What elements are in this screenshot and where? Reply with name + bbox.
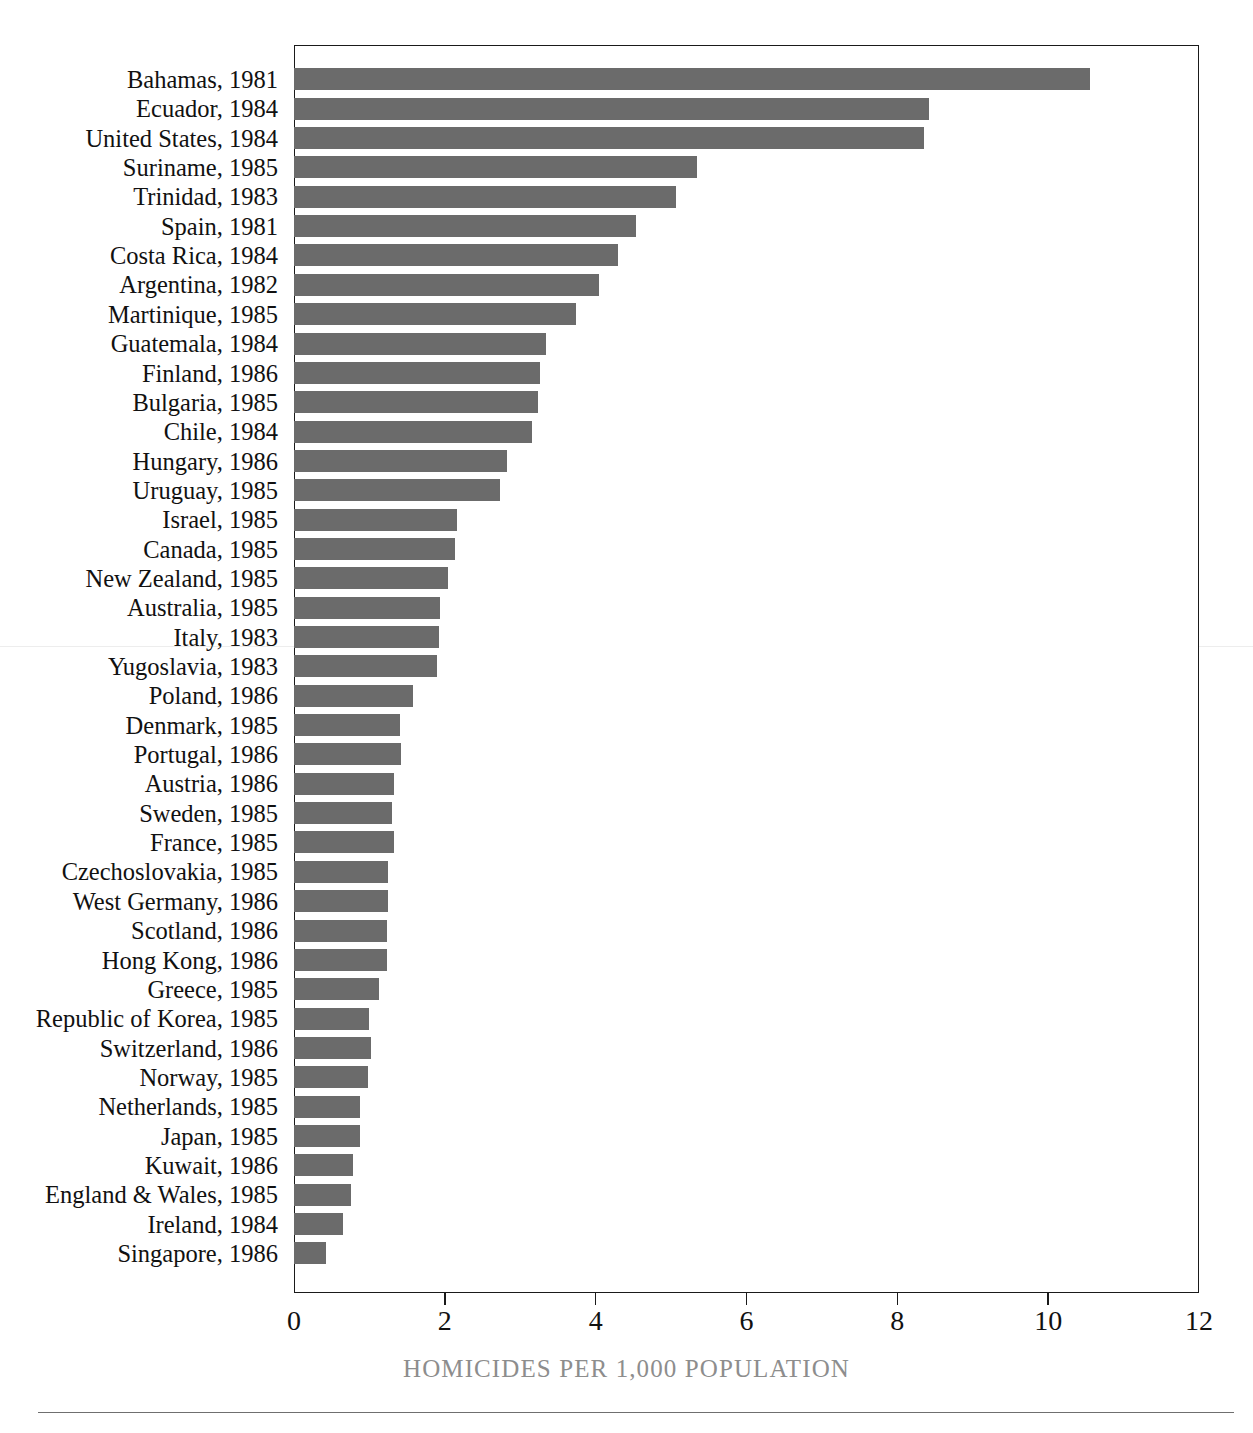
y-axis-label: Greece, 1985 xyxy=(0,975,286,1004)
bar xyxy=(294,303,576,325)
x-axis-tick-label: 8 xyxy=(890,1305,904,1337)
bar xyxy=(294,597,440,619)
y-axis-label: Spain, 1981 xyxy=(0,212,286,241)
bar xyxy=(294,1242,326,1264)
bar-row xyxy=(294,1122,1199,1151)
bar-row xyxy=(294,887,1199,916)
y-axis-label: Chile, 1984 xyxy=(0,417,286,446)
bar xyxy=(294,802,392,824)
bar xyxy=(294,626,439,648)
bar xyxy=(294,1184,351,1206)
bar-row xyxy=(294,359,1199,388)
bar xyxy=(294,743,401,765)
bar-row xyxy=(294,711,1199,740)
y-axis-label: Costa Rica, 1984 xyxy=(0,241,286,270)
y-axis-label: West Germany, 1986 xyxy=(0,887,286,916)
y-axis-label: Japan, 1985 xyxy=(0,1122,286,1151)
bar xyxy=(294,186,676,208)
bar-row xyxy=(294,857,1199,886)
x-axis-tick-label: 4 xyxy=(589,1305,603,1337)
bar-row xyxy=(294,946,1199,975)
y-axis-label: Argentina, 1982 xyxy=(0,270,286,299)
bar xyxy=(294,421,532,443)
bar xyxy=(294,890,388,912)
bar-row xyxy=(294,153,1199,182)
page-bottom-rule xyxy=(38,1412,1234,1413)
y-axis-label: Netherlands, 1985 xyxy=(0,1092,286,1121)
bar-row xyxy=(294,124,1199,153)
y-axis-label: Ireland, 1984 xyxy=(0,1210,286,1239)
bar-row xyxy=(294,975,1199,1004)
bar-row xyxy=(294,799,1199,828)
bar-row xyxy=(294,623,1199,652)
bar-row xyxy=(294,769,1199,798)
bar xyxy=(294,567,448,589)
y-axis-label: United States, 1984 xyxy=(0,124,286,153)
bar-row xyxy=(294,388,1199,417)
bar-row xyxy=(294,241,1199,270)
bar-row xyxy=(294,270,1199,299)
x-axis-tick-label: 6 xyxy=(740,1305,754,1337)
bar-row xyxy=(294,916,1199,945)
bar-row xyxy=(294,593,1199,622)
x-axis-tick xyxy=(897,1293,899,1305)
y-axis-label: Suriname, 1985 xyxy=(0,153,286,182)
bar-row xyxy=(294,652,1199,681)
y-axis-label: Hungary, 1986 xyxy=(0,447,286,476)
bar-row xyxy=(294,476,1199,505)
y-axis-label: Yugoslavia, 1983 xyxy=(0,652,286,681)
bar xyxy=(294,861,388,883)
bar xyxy=(294,1037,371,1059)
bar xyxy=(294,1096,360,1118)
bar xyxy=(294,274,599,296)
bar-row xyxy=(294,1210,1199,1239)
y-axis-label: France, 1985 xyxy=(0,828,286,857)
bar xyxy=(294,538,455,560)
x-axis-tick-label: 0 xyxy=(287,1305,301,1337)
bar-row xyxy=(294,329,1199,358)
bar-chart-figure: Bahamas, 1981Ecuador, 1984United States,… xyxy=(0,0,1253,1433)
bar xyxy=(294,68,1090,90)
bar xyxy=(294,479,500,501)
bar-row xyxy=(294,828,1199,857)
y-axis-label: Canada, 1985 xyxy=(0,535,286,564)
bar xyxy=(294,244,618,266)
bar xyxy=(294,391,538,413)
y-axis-label: Norway, 1985 xyxy=(0,1063,286,1092)
bar-row xyxy=(294,1004,1199,1033)
y-axis-label: Ecuador, 1984 xyxy=(0,94,286,123)
bar xyxy=(294,773,394,795)
y-axis-label: Bulgaria, 1985 xyxy=(0,388,286,417)
bar-row xyxy=(294,417,1199,446)
y-axis-label: Bahamas, 1981 xyxy=(0,65,286,94)
bar xyxy=(294,1125,360,1147)
bar-row xyxy=(294,94,1199,123)
bar-row xyxy=(294,1180,1199,1209)
y-axis-label: New Zealand, 1985 xyxy=(0,564,286,593)
bar-row xyxy=(294,535,1199,564)
y-axis-label: Finland, 1986 xyxy=(0,359,286,388)
y-axis-label: Poland, 1986 xyxy=(0,681,286,710)
x-axis-tick-label: 12 xyxy=(1185,1305,1213,1337)
y-axis-label: Republic of Korea, 1985 xyxy=(0,1004,286,1033)
bar-row xyxy=(294,65,1199,94)
bar xyxy=(294,127,924,149)
bar xyxy=(294,831,394,853)
bar-row xyxy=(294,681,1199,710)
bar xyxy=(294,714,400,736)
bar xyxy=(294,978,379,1000)
bar-row xyxy=(294,1034,1199,1063)
y-axis-label: Czechoslovakia, 1985 xyxy=(0,857,286,886)
y-axis-label: Austria, 1986 xyxy=(0,769,286,798)
y-axis-label: Guatemala, 1984 xyxy=(0,329,286,358)
y-axis-label: Australia, 1985 xyxy=(0,593,286,622)
y-axis-label: England & Wales, 1985 xyxy=(0,1180,286,1209)
x-axis-tick xyxy=(595,1293,597,1305)
x-axis-title: HOMICIDES PER 1,000 POPULATION xyxy=(0,1355,1253,1383)
bars-layer xyxy=(294,45,1199,1293)
y-axis-label: Uruguay, 1985 xyxy=(0,476,286,505)
bar-row xyxy=(294,1063,1199,1092)
bar xyxy=(294,156,697,178)
x-axis-tick-label: 10 xyxy=(1034,1305,1062,1337)
y-axis-label: Sweden, 1985 xyxy=(0,799,286,828)
